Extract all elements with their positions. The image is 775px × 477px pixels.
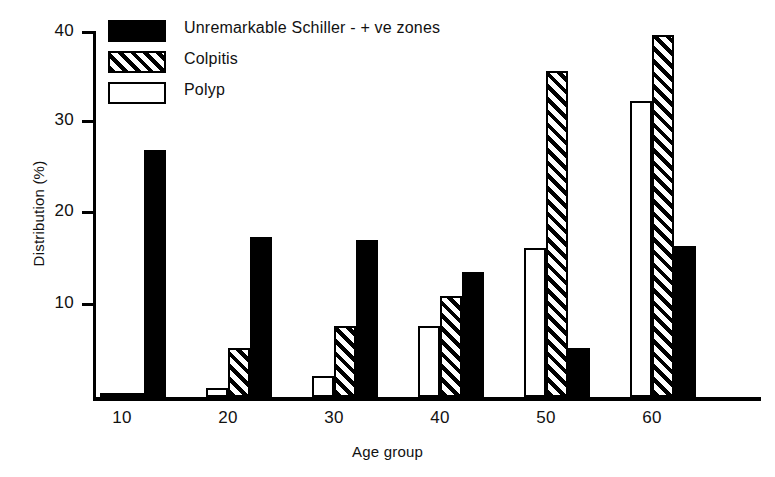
x-tick-label-10: 10 bbox=[82, 408, 162, 428]
bar-20-polyp bbox=[206, 388, 228, 397]
bar-10-colpitis bbox=[122, 393, 144, 397]
x-tick-label-50: 50 bbox=[506, 408, 586, 428]
legend-swatch-solid-icon bbox=[108, 20, 166, 42]
x-tick-label-40: 40 bbox=[400, 408, 480, 428]
bar-30-unremarkable-schiller-ve-zones bbox=[356, 240, 378, 397]
bar-20-colpitis bbox=[228, 348, 250, 397]
bar-40-unremarkable-schiller-ve-zones bbox=[462, 272, 484, 397]
legend-swatch-open-icon bbox=[108, 82, 166, 104]
bar-30-colpitis bbox=[334, 326, 356, 397]
bar-60-colpitis bbox=[652, 35, 674, 397]
legend-label-unremarkable-schiller: Unremarkable Schiller - + ve zones bbox=[184, 19, 440, 37]
x-tick-label-30: 30 bbox=[294, 408, 374, 428]
bar-50-polyp bbox=[524, 248, 546, 397]
legend-swatch-hatch-icon bbox=[108, 51, 166, 73]
bar-10-unremarkable-schiller-ve-zones bbox=[144, 150, 166, 397]
bar-40-colpitis bbox=[440, 296, 462, 397]
x-tick-label-20: 20 bbox=[188, 408, 268, 428]
bar-20-unremarkable-schiller-ve-zones bbox=[250, 237, 272, 397]
bar-chart: Distribution (%) 40 30 20 10 10 20 30 40… bbox=[0, 0, 775, 477]
x-axis-title: Age group bbox=[0, 443, 775, 460]
legend-label-colpitis: Colpitis bbox=[184, 50, 238, 68]
bar-40-polyp bbox=[418, 326, 440, 397]
bar-60-unremarkable-schiller-ve-zones bbox=[674, 246, 696, 397]
bar-50-colpitis bbox=[546, 71, 568, 397]
legend-label-polyp: Polyp bbox=[184, 81, 225, 99]
bar-30-polyp bbox=[312, 376, 334, 397]
bar-10-polyp bbox=[100, 393, 122, 397]
x-tick-label-60: 60 bbox=[612, 408, 692, 428]
bar-60-polyp bbox=[630, 101, 652, 397]
bar-50-unremarkable-schiller-ve-zones bbox=[568, 348, 590, 397]
